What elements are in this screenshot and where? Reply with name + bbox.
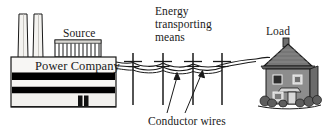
service-drop-wire [256,57,270,59]
source-louver-unit [55,40,101,57]
label-power-company: Power Company [35,59,120,73]
label-energy-transporting-means: Energy transporting means [155,5,212,44]
house-group [256,38,322,109]
label-load: Load [266,25,290,38]
smokestack-left-icon [18,14,28,58]
label-conductor-wires: Conductor wires [148,115,226,128]
utility-pole-2 [154,53,172,105]
utility-pole-4 [213,53,231,105]
smokestack-right-icon [33,14,43,58]
house-roof [264,44,312,66]
utility-pole-1 [124,53,142,105]
house-window-lower-left-pane [275,94,281,99]
label-energy-line3: means [155,31,212,44]
porch-awning [278,88,301,92]
label-source: Source [63,27,96,40]
leader-arrows-group [167,71,205,114]
label-energy-line2: transporting [155,18,212,31]
leader-arrow-right [185,71,205,114]
leader-arrow-left [167,73,180,114]
house-window-upper-left [273,75,282,84]
house-window-upper-right [293,75,302,84]
house-door [288,92,296,104]
power-transmission-diagram: Source Power Company Energy transporting… [0,0,327,131]
conductor-wire-1 [116,59,256,67]
label-energy-line1: Energy [155,5,212,18]
